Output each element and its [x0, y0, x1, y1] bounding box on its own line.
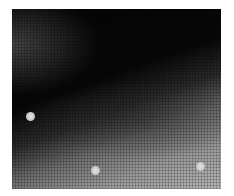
grayscale-photo [12, 9, 221, 189]
light-spot-2 [91, 166, 100, 175]
light-spot-3 [196, 162, 205, 171]
light-spot-1 [26, 112, 35, 121]
